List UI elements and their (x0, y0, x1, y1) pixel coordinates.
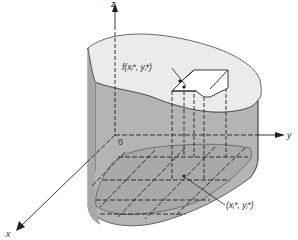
base-point-marker (182, 174, 185, 177)
y-axis-label: y (287, 131, 291, 140)
diagram-canvas: z y x 0 f(xᵢ*, yⱼ*) (xᵢ*, yⱼ*) (0, 0, 298, 240)
z-axis-label: z (111, 0, 115, 9)
height-point-marker (178, 79, 181, 82)
height-label: f(xᵢ*, yⱼ*) (122, 63, 152, 72)
point-label: (xᵢ*, yⱼ*) (226, 201, 254, 210)
y-axis-arrow-icon (275, 132, 285, 138)
x-axis (20, 161, 88, 227)
surface-point-marker (182, 85, 185, 88)
x-axis-label: x (6, 230, 10, 239)
origin-label: 0 (118, 138, 123, 147)
x-axis-arrow-icon (16, 221, 25, 231)
